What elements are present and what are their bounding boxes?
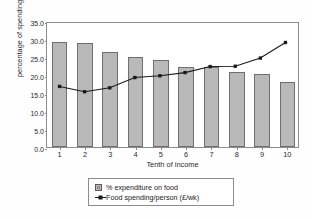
line-marker [183, 71, 186, 74]
y-tick-label: 0.0 [4, 146, 44, 153]
line-marker [234, 65, 237, 68]
x-tick-label: 3 [98, 151, 122, 159]
line-path [60, 42, 286, 91]
line-marker [208, 65, 211, 68]
y-tick-label: 15.0 [4, 92, 44, 99]
plot-inner: 0.05.010.015.020.025.030.035.0 123456789… [47, 23, 298, 147]
y-tick-label: 30.0 [4, 38, 44, 45]
line-marker [133, 76, 136, 79]
x-axis-title: Tenth of income [46, 160, 299, 169]
bar-swatch-icon [95, 184, 102, 191]
chart-figure: percentage of spending on food 0.05.010.… [0, 0, 312, 219]
x-tick-label: 1 [48, 151, 72, 159]
x-tick-label: 4 [124, 151, 148, 159]
x-tick-label: 8 [225, 151, 249, 159]
x-tick-label: 7 [199, 151, 223, 159]
line-marker [158, 74, 161, 77]
y-tick-label: 20.0 [4, 74, 44, 81]
y-tick-label: 5.0 [4, 128, 44, 135]
line-marker [58, 85, 61, 88]
line-marker-icon [95, 194, 102, 201]
legend-item-label: % expenditure on food [106, 183, 178, 192]
y-tick-label: 10.0 [4, 110, 44, 117]
x-tick-label: 2 [73, 151, 97, 159]
line-marker [284, 41, 287, 44]
line-marker [83, 90, 86, 93]
y-tick-mark [45, 149, 48, 150]
line-series [47, 23, 298, 147]
legend-item-bar: % expenditure on food [95, 182, 227, 192]
y-tick-label: 25.0 [4, 56, 44, 63]
legend-item-line: Food spending/person (£/wk) [95, 192, 227, 202]
x-tick-label: 10 [275, 151, 299, 159]
y-tick-label: 35.0 [4, 20, 44, 27]
x-tick-label: 5 [149, 151, 173, 159]
legend-item-label: Food spending/person (£/wk) [106, 193, 199, 202]
chart-legend: % expenditure on food Food spending/pers… [88, 178, 234, 206]
line-marker [108, 86, 111, 89]
x-tick-label: 9 [250, 151, 274, 159]
plot-area: 0.05.010.015.020.025.030.035.0 123456789… [46, 22, 299, 148]
x-tick-label: 6 [174, 151, 198, 159]
line-marker [259, 56, 262, 59]
